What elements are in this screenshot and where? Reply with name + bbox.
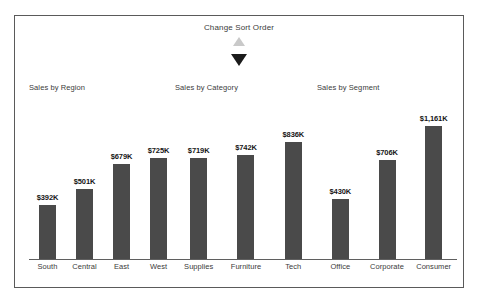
dashboard-frame: Change Sort Order Sales by Region $392K … [14, 15, 464, 288]
chart-sales-by-region: Sales by Region $392K $501K $679K [29, 82, 177, 282]
bar[interactable] [39, 205, 56, 260]
x-tick-label: Office [317, 262, 364, 271]
bar-value-label: $501K [74, 177, 96, 187]
plot-area: $430K $706K $1,161K [317, 96, 457, 260]
bar-value-label: $725K [148, 146, 170, 156]
x-tick-label: East [103, 262, 140, 271]
chart-title: Sales by Segment [317, 82, 457, 94]
bar-value-label: $742K [235, 143, 257, 153]
chart-title: Sales by Category [175, 82, 317, 94]
x-axis-tick-labels: Office Corporate Consumer [317, 262, 457, 271]
x-tick-label: Central [66, 262, 103, 271]
x-tick-label: South [29, 262, 66, 271]
x-tick-label: West [140, 262, 177, 271]
x-tick-label: Consumer [410, 262, 457, 271]
bar[interactable] [379, 160, 396, 260]
bar-slot[interactable]: $706K [364, 96, 411, 260]
bar-value-label: $430K [330, 187, 352, 197]
x-tick-label: Supplies [175, 262, 222, 271]
bar-slot[interactable]: $719K [175, 96, 222, 260]
bar[interactable] [332, 199, 349, 260]
bar-group: $719K $742K $836K [175, 96, 317, 260]
bar-slot[interactable]: $725K [140, 96, 177, 260]
bar[interactable] [237, 155, 254, 260]
bar-group: $430K $706K $1,161K [317, 96, 457, 260]
bar-group: $392K $501K $679K $725K [29, 96, 177, 260]
x-axis-line [29, 259, 177, 261]
x-axis-tick-labels: Supplies Furniture Tech [175, 262, 317, 271]
bar-value-label: $836K [283, 130, 305, 140]
chart-sales-by-segment: Sales by Segment $430K $706K $1,161K [317, 82, 457, 282]
bar-value-label: $1,161K [420, 114, 448, 124]
charts-row: Sales by Region $392K $501K $679K [15, 82, 463, 282]
triangle-up-icon[interactable] [233, 37, 245, 46]
chart-sales-by-category: Sales by Category $719K $742K $836K [175, 82, 317, 282]
bar-slot[interactable]: $392K [29, 96, 66, 260]
bar[interactable] [425, 126, 442, 260]
plot-area: $719K $742K $836K [175, 96, 317, 260]
bar[interactable] [76, 189, 93, 260]
bar-slot[interactable]: $836K [270, 96, 317, 260]
sort-order-control: Change Sort Order [15, 22, 463, 66]
sort-descending-button[interactable] [15, 54, 463, 66]
x-tick-label: Corporate [364, 262, 411, 271]
x-tick-label: Tech [270, 262, 317, 271]
x-axis-line [317, 259, 457, 261]
bar-value-label: $679K [111, 152, 133, 162]
sort-order-title: Change Sort Order [15, 22, 463, 34]
triangle-down-icon[interactable] [231, 54, 247, 66]
bar-value-label: $719K [188, 146, 210, 156]
bar-slot[interactable]: $742K [222, 96, 269, 260]
chart-title: Sales by Region [29, 82, 177, 94]
bar-slot[interactable]: $430K [317, 96, 364, 260]
bar-value-label: $392K [37, 193, 59, 203]
bar[interactable] [113, 164, 130, 260]
bar-slot[interactable]: $1,161K [410, 96, 457, 260]
bar[interactable] [285, 142, 302, 260]
x-axis-line [175, 259, 317, 261]
sort-ascending-button[interactable] [15, 37, 463, 46]
bar-slot[interactable]: $501K [66, 96, 103, 260]
sort-icon-spacer [15, 46, 463, 51]
bar[interactable] [150, 158, 167, 261]
x-tick-label: Furniture [222, 262, 269, 271]
bar-slot[interactable]: $679K [103, 96, 140, 260]
bar[interactable] [190, 158, 207, 260]
plot-area: $392K $501K $679K $725K [29, 96, 177, 260]
bar-value-label: $706K [376, 148, 398, 158]
x-axis-tick-labels: South Central East West [29, 262, 177, 271]
